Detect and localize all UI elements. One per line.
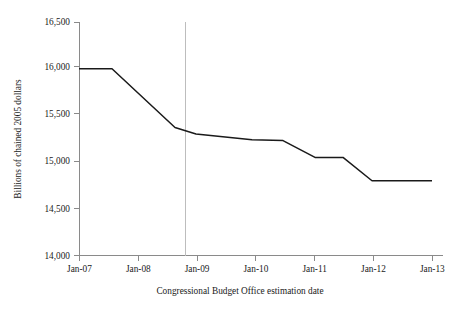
x-tick-label: Jan-10 — [244, 264, 269, 274]
y-tick-label: 15,000 — [44, 156, 70, 166]
y-tick-label: 14,500 — [44, 204, 70, 214]
y-tick-label: 16,000 — [44, 62, 70, 72]
y-tick-label: 16,500 — [44, 17, 70, 27]
x-axis-title: Congressional Budget Office estimation d… — [156, 286, 323, 296]
x-tick-label: Jan-07 — [67, 264, 92, 274]
x-tick-label: Jan-11 — [302, 264, 327, 274]
chart-container: 14,000 14,500 15,000 15,500 16,000 16,50… — [0, 0, 454, 312]
x-tick-label: Jan-13 — [420, 264, 445, 274]
x-tick-label: Jan-08 — [126, 264, 151, 274]
y-tick-label: 14,000 — [44, 251, 70, 261]
y-axis-title: Billions of chained 2005 dollars — [13, 79, 23, 199]
line-chart: 14,000 14,500 15,000 15,500 16,000 16,50… — [0, 0, 454, 312]
x-tick-label: Jan-12 — [361, 264, 386, 274]
y-tick-label: 15,500 — [44, 109, 70, 119]
x-tick-label: Jan-09 — [185, 264, 210, 274]
